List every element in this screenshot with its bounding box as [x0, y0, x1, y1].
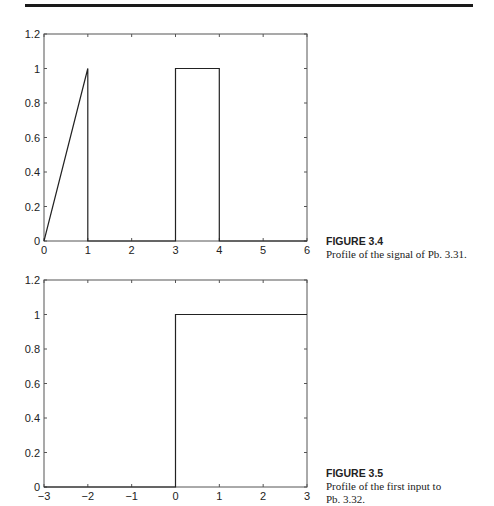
y-tick-label: 0.4 [25, 412, 40, 424]
figure-3-5-chart: −3−2−1012300.20.40.60.811.2 [0, 246, 340, 502]
x-tick-label: 3 [304, 490, 310, 502]
y-tick-label: 0.6 [25, 132, 40, 144]
x-tick-label: −1 [125, 490, 138, 502]
y-tick-label: 0.8 [25, 97, 40, 109]
y-tick-label: 1.2 [25, 28, 40, 40]
figure-3-4-chart: 012345600.20.40.60.811.2 [0, 0, 340, 260]
figure-3-5-text-line-1: Profile of the first input to [326, 480, 441, 493]
figure-3-4-label: FIGURE 3.4 [326, 235, 467, 248]
x-tick-label: 0 [172, 490, 178, 502]
x-tick-label: 1 [216, 490, 222, 502]
figure-3-5-caption: FIGURE 3.5 Profile of the first input to… [326, 467, 441, 506]
figure-3-5-label: FIGURE 3.5 [326, 467, 441, 480]
series-line-input [44, 315, 307, 488]
figure-3-4-text: Profile of the signal of Pb. 3.31. [326, 248, 467, 261]
figure-3-4-caption: FIGURE 3.4 Profile of the signal of Pb. … [326, 235, 467, 261]
y-tick-label: 0.2 [25, 201, 40, 213]
y-tick-label: 1 [34, 63, 40, 75]
y-tick-label: 0 [34, 481, 40, 493]
figure-3-5-text-line-2: Pb. 3.32. [326, 493, 441, 506]
x-tick-label: 2 [260, 490, 266, 502]
y-tick-label: 0.6 [25, 378, 40, 390]
y-tick-label: 1 [34, 309, 40, 321]
y-tick-label: 0.8 [25, 343, 40, 355]
x-tick-label: −2 [82, 490, 95, 502]
y-tick-label: 0.2 [25, 447, 40, 459]
series-line-signal [44, 69, 307, 242]
y-tick-label: 1.2 [25, 274, 40, 286]
y-tick-label: 0.4 [25, 166, 40, 178]
